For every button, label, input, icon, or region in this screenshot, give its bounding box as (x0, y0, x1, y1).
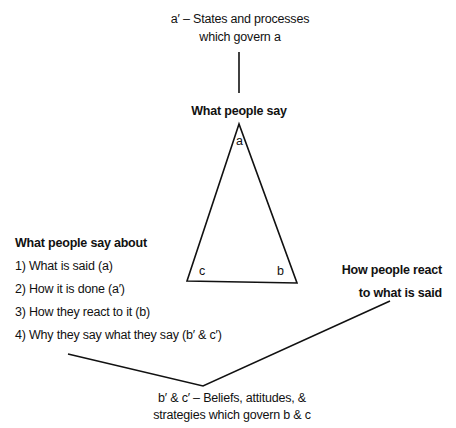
right-label-line1: How people react (342, 263, 442, 278)
vertex-label-a: a (236, 134, 243, 148)
bottom-note-line1: b′ & c′ – Beliefs, attitudes, & (158, 391, 306, 406)
triangle-title: What people say (191, 104, 287, 119)
diagram-canvas: a′ – States and processes which govern a… (0, 0, 456, 428)
right-label-line2: to what is said (359, 286, 442, 301)
vertex-label-b: b (277, 264, 284, 278)
left-list-item: 1) What is said (a) (15, 259, 113, 274)
left-list-item: 3) How they react to it (b) (15, 305, 150, 320)
bottom-note-line2: strategies which govern b & c (153, 408, 310, 423)
left-list-item: 4) Why they say what they say (b′ & c′) (15, 328, 222, 343)
vertex-label-c: c (199, 264, 205, 278)
left-list-heading: What people say about (15, 236, 147, 251)
top-note-line2: which govern a (199, 30, 280, 45)
diagram-lines (0, 0, 456, 428)
left-list-item: 2) How it is done (a′) (15, 282, 125, 297)
top-note-line1: a′ – States and processes (171, 12, 309, 27)
